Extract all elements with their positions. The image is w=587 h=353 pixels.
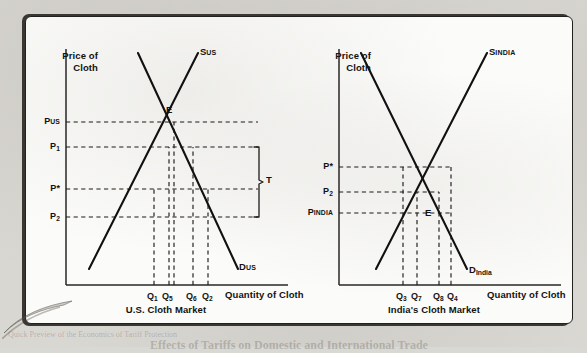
us-price-tick-p2: P2 (26, 211, 60, 221)
ghost-text-31: Quick Preview of the Economics of Tariff… (8, 330, 177, 339)
us-x-axis-title: Quantity of Cloth (225, 290, 304, 301)
india-price-tick-p2: P2 (299, 186, 333, 196)
india-x-axis-title: Quantity of Cloth (487, 290, 566, 301)
us-price-tick-p1: P1 (26, 141, 60, 151)
us-y-axis-title-line2: Cloth (26, 63, 98, 74)
india-supply-curve (376, 53, 487, 269)
us-tariff-bracket-label: T (266, 175, 272, 186)
us-supply-curve (89, 53, 198, 269)
us-supply-curve-label: SUS (200, 47, 216, 58)
india-supply-curve-label: SINDIA (489, 47, 515, 58)
us-price-tick-pstar: P* (26, 183, 60, 193)
india-qty-tick-q7: Q7 (411, 291, 422, 301)
chart-india-cloth-market: Price of Cloth P* P2 PINDIA Q3 Q7 Q8 Q4 … (299, 17, 572, 323)
india-demand-curve-label: DIndia (469, 265, 492, 276)
us-qty-tick-q2: Q2 (202, 291, 213, 301)
us-qty-tick-q5: Q5 (162, 291, 173, 301)
us-y-axis-title-line1: Price of (26, 51, 98, 62)
india-y-axis-title-line2: Cloth (299, 63, 371, 74)
india-equilibrium-label: E (425, 208, 431, 219)
us-demand-curve (138, 53, 238, 269)
india-qty-tick-q3: Q3 (396, 291, 407, 301)
india-demand-curve (361, 53, 467, 269)
us-demand-curve-label: DUS (239, 262, 256, 273)
chart-us-cloth-market: Price of Cloth PUS P1 P* P2 Q1 Q5 Q6 Q2 … (26, 17, 299, 323)
india-price-tick-pstar: P* (299, 161, 333, 171)
india-qty-tick-q4: Q4 (447, 291, 458, 301)
us-chart-caption: U.S. Cloth Market (66, 305, 266, 316)
india-qty-tick-q8: Q8 (433, 291, 444, 301)
india-chart-caption: India's Cloth Market (329, 305, 539, 316)
ghost-text-30: Effects of Tariffs on Domestic and Inter… (150, 338, 428, 353)
us-tariff-bracket (254, 147, 263, 217)
us-price-tick-pus: PUS (26, 116, 60, 126)
figure-panel: Price of Cloth PUS P1 P* P2 Q1 Q5 Q6 Q2 … (25, 16, 573, 324)
us-equilibrium-label: E (166, 105, 172, 116)
us-qty-tick-q1: Q1 (147, 291, 158, 301)
india-price-tick-pindia: PINDIA (291, 207, 333, 217)
india-y-axis-title-line1: Price of (299, 51, 371, 62)
us-qty-tick-q6: Q6 (186, 291, 197, 301)
